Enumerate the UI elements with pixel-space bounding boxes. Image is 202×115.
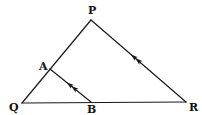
vertex-label-R: R [189,101,199,114]
point-label-B: B [87,103,96,115]
segment-QR [22,102,186,103]
triangle-diagram: P Q R A B [0,0,202,115]
vertex-label-P: P [88,4,96,17]
segment-PQ [22,20,91,103]
point-label-A: A [38,60,48,73]
vertex-label-Q: Q [9,101,19,114]
